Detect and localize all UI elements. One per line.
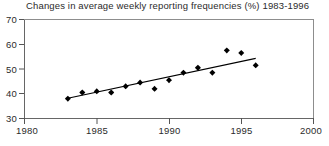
axis-frame (24, 19, 314, 119)
data-point (123, 83, 129, 89)
x-tick-label-2000: 2000 (300, 125, 322, 136)
x-tick-label-1985: 1985 (86, 125, 108, 136)
data-point (238, 50, 244, 56)
data-point (253, 62, 259, 68)
x-tick-label-1990: 1990 (159, 125, 181, 136)
y-tick-label-30: 30 (6, 113, 17, 124)
data-point (180, 70, 186, 76)
chart-plot-area: 70 60 50 40 30 1980 1985 1990 1995 2000 (0, 0, 329, 146)
x-tick-label-1995: 1995 (231, 125, 253, 136)
y-tick-label-40: 40 (6, 88, 17, 99)
x-tick-label-1980: 1980 (16, 125, 38, 136)
y-tick-label-60: 60 (6, 39, 17, 50)
data-point (137, 80, 143, 86)
data-point (209, 70, 215, 76)
y-axis-ticks (19, 20, 24, 119)
data-point (65, 96, 71, 102)
data-point (94, 88, 100, 94)
data-point (108, 90, 114, 96)
y-tick-label-50: 50 (6, 64, 17, 75)
data-point (152, 86, 158, 92)
data-point-group (65, 47, 259, 101)
data-point (166, 77, 172, 83)
chart-container: Changes in average weekly reporting freq… (0, 0, 329, 146)
y-tick-label-70: 70 (6, 14, 17, 25)
data-point (224, 47, 230, 53)
